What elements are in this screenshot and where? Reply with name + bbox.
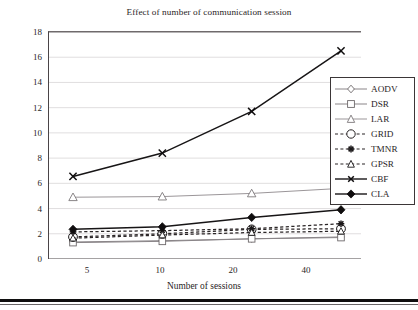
series-grid bbox=[69, 224, 346, 241]
x-tick-label-10: 10 bbox=[145, 265, 175, 275]
legend-label-gpsr: GPSR bbox=[368, 159, 394, 169]
legend-marker-triangle-small-icon bbox=[334, 157, 368, 171]
series-dsr bbox=[70, 234, 345, 246]
legend-marker-square-open-icon bbox=[334, 97, 368, 111]
y-tick-label-14: 14 bbox=[20, 77, 42, 87]
legend-item-dsr[interactable]: DSR bbox=[331, 96, 414, 111]
y-tick-label-4: 4 bbox=[20, 204, 42, 214]
x-tick-label-40: 40 bbox=[291, 265, 321, 275]
y-tick-label-18: 18 bbox=[20, 27, 42, 37]
y-tick-label-0: 0 bbox=[20, 254, 42, 264]
data-series-layer bbox=[69, 47, 346, 246]
series-cbf bbox=[69, 47, 344, 180]
legend-label-aodv: AODV bbox=[368, 84, 398, 94]
legend-item-cbf[interactable]: CBF bbox=[331, 171, 414, 186]
chart-legend[interactable]: AODV DSR LAR GRID bbox=[330, 77, 415, 205]
plot-svg bbox=[49, 32, 361, 259]
legend-item-gpsr[interactable]: GPSR bbox=[331, 156, 414, 171]
series-gpsr bbox=[70, 228, 345, 241]
legend-item-cla[interactable]: CLA bbox=[331, 186, 414, 201]
legend-item-grid[interactable]: GRID bbox=[331, 126, 414, 141]
chart-title: Effect of number of communication sessio… bbox=[0, 7, 418, 17]
legend-item-tmnr[interactable]: TMNR bbox=[331, 141, 414, 156]
legend-label-dsr: DSR bbox=[368, 99, 389, 109]
y-tick-label-12: 12 bbox=[20, 103, 42, 113]
plot-area bbox=[48, 31, 361, 259]
legend-label-tmnr: TMNR bbox=[368, 144, 398, 154]
legend-item-aodv[interactable]: AODV bbox=[331, 81, 414, 96]
legend-marker-triangle-open-icon bbox=[334, 112, 368, 126]
legend-label-grid: GRID bbox=[368, 129, 393, 139]
legend-marker-star-icon bbox=[334, 142, 368, 156]
y-tick-label-6: 6 bbox=[20, 178, 42, 188]
y-tick-label-2: 2 bbox=[20, 229, 42, 239]
footer-rule-thin bbox=[0, 304, 418, 305]
legend-marker-diamond-filled-icon bbox=[334, 187, 368, 201]
y-tick-label-8: 8 bbox=[20, 153, 42, 163]
legend-label-cbf: CBF bbox=[368, 174, 388, 184]
x-axis-title: Number of sessions bbox=[48, 281, 360, 291]
legend-marker-diamond-open-icon bbox=[334, 82, 368, 96]
footer-rule bbox=[0, 299, 418, 302]
legend-item-lar[interactable]: LAR bbox=[331, 111, 414, 126]
legend-marker-x-cross-icon bbox=[334, 172, 368, 186]
series-lar bbox=[69, 184, 345, 200]
series-aodv bbox=[70, 233, 345, 245]
legend-label-cla: CLA bbox=[368, 189, 389, 199]
figure-canvas: Effect of number of communication sessio… bbox=[0, 0, 418, 310]
y-tick-label-10: 10 bbox=[20, 128, 42, 138]
x-tick-label-5: 5 bbox=[72, 265, 102, 275]
x-tick-label-20: 20 bbox=[218, 265, 248, 275]
y-tick-label-16: 16 bbox=[20, 52, 42, 62]
legend-marker-circle-open-icon bbox=[334, 127, 368, 141]
legend-label-lar: LAR bbox=[368, 114, 389, 124]
